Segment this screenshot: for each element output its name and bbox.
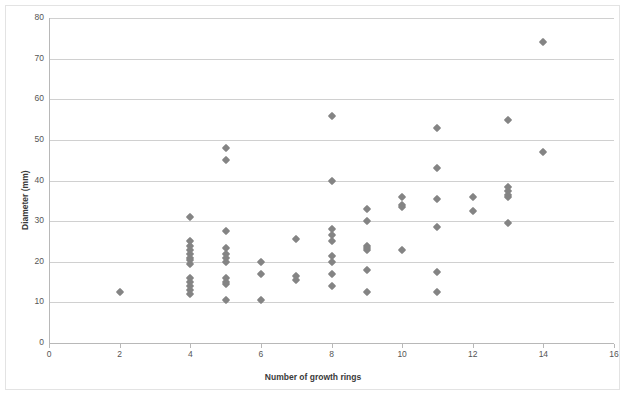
data-point <box>292 235 300 243</box>
x-tick-mark <box>261 344 262 348</box>
data-point <box>398 193 406 201</box>
data-point <box>363 205 371 213</box>
data-point <box>539 148 547 156</box>
x-tick-label: 10 <box>392 350 412 359</box>
data-point <box>257 296 265 304</box>
y-tick-label: 20 <box>20 257 44 266</box>
data-point <box>221 156 229 164</box>
data-point <box>433 288 441 296</box>
data-point <box>433 268 441 276</box>
data-point <box>221 227 229 235</box>
data-point <box>327 237 335 245</box>
x-tick-label: 4 <box>180 350 200 359</box>
data-point <box>433 123 441 131</box>
y-tick-label: 50 <box>20 135 44 144</box>
data-point <box>504 115 512 123</box>
data-point <box>327 176 335 184</box>
data-point <box>469 193 477 201</box>
y-tick-label: 0 <box>20 338 44 347</box>
scatter-plot: 01020304050607080 0246810121416 Diameter… <box>0 0 626 399</box>
x-tick-label: 8 <box>322 350 342 359</box>
data-point <box>115 288 123 296</box>
gridline-y <box>49 302 614 303</box>
x-tick-label: 12 <box>463 350 483 359</box>
data-point <box>221 296 229 304</box>
data-point <box>327 111 335 119</box>
x-tick-mark <box>473 344 474 348</box>
data-point <box>186 290 194 298</box>
x-tick-label: 14 <box>533 350 553 359</box>
x-tick-mark <box>49 344 50 348</box>
x-axis-title: Number of growth rings <box>0 372 626 382</box>
y-axis-line <box>49 18 50 344</box>
x-tick-mark <box>332 344 333 348</box>
y-tick-label: 60 <box>20 94 44 103</box>
x-tick-mark <box>543 344 544 348</box>
x-tick-mark <box>402 344 403 348</box>
x-axis-line <box>49 343 614 344</box>
gridline-y <box>49 140 614 141</box>
y-tick-label: 10 <box>20 297 44 306</box>
gridline-y <box>49 99 614 100</box>
data-point <box>433 164 441 172</box>
x-tick-label: 16 <box>604 350 624 359</box>
data-point <box>363 288 371 296</box>
gridline-y <box>49 59 614 60</box>
y-tick-label: 70 <box>20 54 44 63</box>
x-tick-label: 0 <box>39 350 59 359</box>
x-tick-label: 6 <box>251 350 271 359</box>
data-point <box>539 38 547 46</box>
data-point <box>363 266 371 274</box>
data-point <box>257 258 265 266</box>
data-point <box>398 245 406 253</box>
x-tick-mark <box>120 344 121 348</box>
data-point <box>363 217 371 225</box>
gridline-y <box>49 18 614 19</box>
data-point <box>327 258 335 266</box>
x-tick-label: 2 <box>110 350 130 359</box>
data-point <box>257 270 265 278</box>
data-point <box>327 270 335 278</box>
data-point <box>433 223 441 231</box>
x-tick-mark <box>190 344 191 348</box>
y-tick-label: 80 <box>20 13 44 22</box>
x-tick-mark <box>614 344 615 348</box>
data-point <box>433 195 441 203</box>
data-point <box>327 282 335 290</box>
data-point <box>221 144 229 152</box>
y-axis-title: Diameter (mm) <box>20 170 30 230</box>
gridline-y <box>49 221 614 222</box>
data-point <box>469 207 477 215</box>
